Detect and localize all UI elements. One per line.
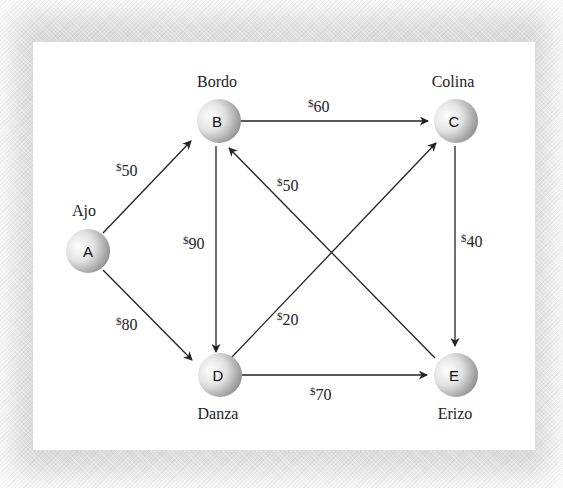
cost-b-c: $60 <box>308 97 330 115</box>
cost-a-d: $80 <box>116 315 138 333</box>
cost-c-e: $40 <box>461 232 483 250</box>
node-b: B Bordo <box>197 73 241 143</box>
edge-costs: $50 $80 $60 $90 $50 $20 $40 $70 <box>116 97 483 403</box>
cost-d-c: $20 <box>277 310 299 328</box>
node-c-letter: C <box>449 113 460 130</box>
node-b-letter: B <box>212 113 222 130</box>
node-d: D Danza <box>198 353 242 422</box>
edges <box>103 121 455 375</box>
cost-a-b: $50 <box>116 161 138 179</box>
node-b-name: Bordo <box>197 73 237 90</box>
node-e: E Erizo <box>434 353 478 422</box>
node-c-name: Colina <box>432 73 475 90</box>
node-e-letter: E <box>449 367 459 384</box>
node-d-name: Danza <box>198 405 239 422</box>
node-c: C Colina <box>432 73 478 143</box>
cost-b-d: $90 <box>183 234 205 252</box>
node-a: A Ajo <box>66 202 110 273</box>
node-d-letter: D <box>213 367 224 384</box>
edge-d-c <box>232 143 436 357</box>
edge-a-b <box>103 141 191 233</box>
cost-e-b: $50 <box>277 176 299 194</box>
node-a-name: Ajo <box>72 202 96 220</box>
node-a-letter: A <box>83 243 93 260</box>
node-e-name: Erizo <box>438 405 473 422</box>
cost-d-e: $70 <box>310 385 332 403</box>
network-graph: $50 $80 $60 $90 $50 $20 $40 $70 A Ajo B … <box>0 0 563 488</box>
